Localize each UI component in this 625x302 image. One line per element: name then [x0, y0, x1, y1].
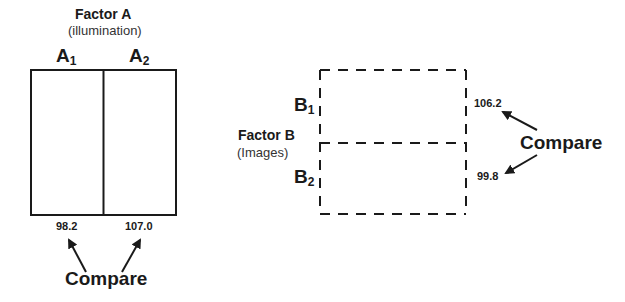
mean-b2: 99.8	[477, 170, 498, 182]
factor-b-box	[320, 70, 466, 214]
mean-a1: 98.2	[56, 220, 77, 232]
factor-b-title: Factor B	[238, 127, 295, 143]
mean-a2: 107.0	[125, 220, 153, 232]
level-a1: A1	[56, 45, 76, 68]
compare-label-a: Compare	[65, 268, 147, 290]
level-b1: B1	[294, 94, 314, 117]
factor-a-title: Factor A	[75, 6, 131, 22]
factor-b-subtitle: (Images)	[237, 145, 288, 160]
factor-a-subtitle: (illumination)	[68, 23, 142, 38]
compare-label-b: Compare	[520, 132, 602, 154]
level-a2: A2	[129, 45, 149, 68]
mean-b1: 106.2	[474, 97, 502, 109]
factor-a-box	[31, 70, 176, 215]
level-b2: B2	[294, 166, 314, 189]
